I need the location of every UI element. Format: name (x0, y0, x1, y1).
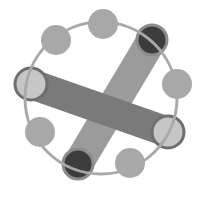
right-node (162, 69, 192, 99)
bottom-right-node (115, 148, 145, 178)
dark-bottom-node (63, 149, 93, 179)
crossed-bars-ring-diagram (0, 0, 203, 197)
lower-left-node (25, 117, 55, 147)
top-node (88, 9, 118, 39)
top-left-node (41, 25, 71, 55)
light-left-node (15, 68, 47, 100)
